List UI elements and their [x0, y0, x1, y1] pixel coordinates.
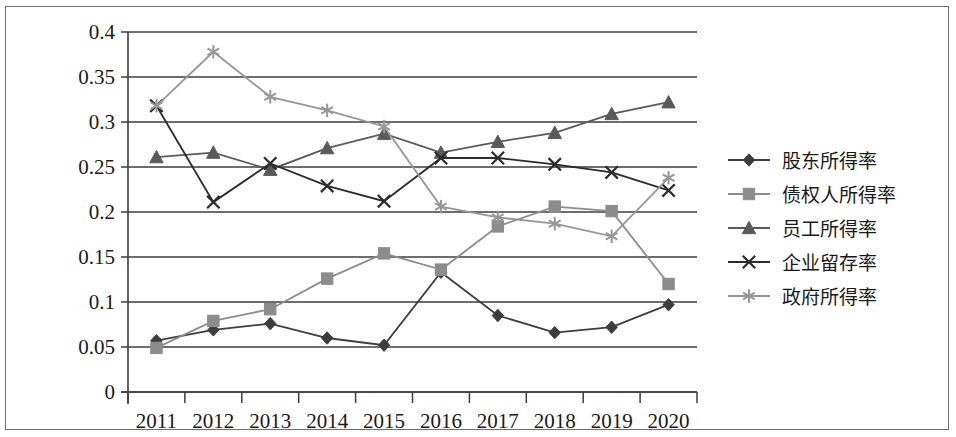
data-point-marker — [264, 90, 276, 103]
square-marker-icon — [743, 188, 754, 199]
data-point-marker — [662, 184, 674, 196]
data-point-marker — [321, 104, 333, 117]
legend-label-1: 股东所得率 — [782, 150, 877, 172]
data-point-marker — [265, 304, 276, 315]
data-point-marker — [549, 326, 560, 338]
legend-item-5[interactable]: 政府所得率 — [728, 286, 877, 308]
x-axis-tick-label: 2016 — [420, 409, 462, 433]
series-line-1 — [156, 272, 668, 345]
x-axis-tick-label: 2017 — [477, 409, 519, 433]
x-axis-group: 2011201220132014201520162017201820192020 — [128, 392, 697, 433]
y-axis-tick-label: 0.4 — [89, 20, 116, 44]
chart-legend: 股东所得率债权人所得率员工所得率企业留存率政府所得率 — [728, 150, 896, 308]
data-point-marker — [208, 315, 219, 326]
diamond-marker-icon — [743, 154, 754, 166]
data-point-marker — [321, 180, 333, 192]
data-point-marker — [378, 195, 390, 207]
data-point-marker — [378, 248, 389, 259]
data-point-marker — [606, 321, 617, 333]
legend-item-2[interactable]: 债权人所得率 — [728, 184, 896, 206]
data-point-marker — [151, 342, 162, 353]
y-axis-tick-label: 0.25 — [78, 155, 115, 179]
data-point-marker — [435, 264, 446, 275]
x-axis-tick-label: 2020 — [648, 409, 690, 433]
x-axis-tick-label: 2014 — [306, 409, 349, 433]
data-point-marker — [663, 278, 674, 289]
y-axis-tick-label: 0.2 — [89, 200, 115, 224]
x-axis-tick-label: 2019 — [591, 409, 633, 433]
legend-item-3[interactable]: 员工所得率 — [728, 218, 877, 240]
x-axis-tick-label: 2011 — [136, 409, 177, 433]
data-point-marker — [663, 299, 674, 311]
y-axis-tick-label: 0.15 — [78, 245, 115, 269]
data-point-marker — [492, 309, 503, 321]
series-line-2 — [156, 207, 668, 348]
series-3 — [150, 96, 676, 176]
legend-item-1[interactable]: 股东所得率 — [728, 150, 877, 172]
legend-label-4: 企业留存率 — [782, 252, 877, 274]
legend-label-2: 债权人所得率 — [782, 184, 896, 206]
data-point-marker — [321, 273, 332, 284]
series-2 — [151, 201, 675, 354]
y-axis-tick-label: 0 — [105, 380, 116, 404]
y-axis-tick-label: 0.05 — [78, 335, 115, 359]
y-axis-tick-label: 0.35 — [78, 65, 115, 89]
x-axis-tick-label: 2018 — [534, 409, 576, 433]
legend-label-3: 员工所得率 — [782, 218, 877, 240]
y-axis-tick-label: 0.3 — [89, 110, 115, 134]
legend-label-5: 政府所得率 — [782, 286, 877, 308]
line-chart-svg: 00.050.10.150.20.250.30.350.420112012201… — [0, 0, 956, 437]
legend-item-4[interactable]: 企业留存率 — [728, 252, 877, 274]
x-axis-tick-label: 2012 — [192, 409, 234, 433]
x-axis-tick-label: 2013 — [249, 409, 291, 433]
y-axis-tick-label: 0.1 — [89, 290, 115, 314]
x-axis-tick-label: 2015 — [363, 409, 405, 433]
series-line-3 — [156, 102, 668, 170]
data-point-marker — [207, 196, 219, 208]
series-4 — [150, 100, 675, 209]
series-1 — [151, 266, 675, 351]
chart-figure: 00.050.10.150.20.250.30.350.420112012201… — [0, 0, 956, 437]
data-point-marker — [548, 126, 561, 138]
data-point-marker — [549, 201, 560, 212]
data-point-marker — [321, 332, 332, 344]
data-point-marker — [662, 96, 675, 108]
data-point-marker — [265, 317, 276, 329]
data-point-marker — [606, 205, 617, 216]
